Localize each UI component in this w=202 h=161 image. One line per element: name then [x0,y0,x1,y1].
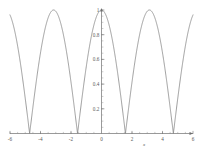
x-axis-arrow [190,132,194,135]
x-tick-label: 2 [131,136,134,142]
y-tick-label: 0.4 [93,81,100,87]
y-tick-label: 0.2 [93,106,100,112]
plot-container: -6-4-20246 0.20.40.60.81 x [0,0,202,161]
y-axis-minor-ticks [102,16,104,127]
function-plot: -6-4-20246 0.20.40.60.81 x [0,0,202,161]
x-tick-label: -6 [8,136,13,142]
y-tick-label: 0.8 [93,32,100,38]
y-axis-tick-labels: 0.20.40.60.81 [93,7,100,112]
x-tick-label: -2 [69,136,74,142]
x-tick-label: 0 [100,136,103,142]
y-tick-label: 0.6 [93,56,100,62]
y-tick-label: 1 [97,7,100,13]
x-tick-label: 6 [192,136,195,142]
x-axis-tick-labels: -6-4-20246 [8,136,195,142]
x-axis-label: x [142,142,146,147]
x-tick-label: -4 [38,136,43,142]
x-tick-label: 4 [161,136,164,142]
